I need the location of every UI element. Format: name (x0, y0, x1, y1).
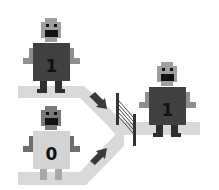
robot-head (157, 62, 177, 86)
top-path (18, 86, 124, 134)
robot-label: 0 (46, 144, 58, 164)
robot-legs (40, 169, 47, 180)
robot-top-input: 1 (23, 18, 80, 93)
robot-head (41, 106, 61, 130)
robot-bottom-input: 0 (23, 106, 80, 180)
merge-diagram: 1 0 (0, 0, 219, 190)
robot-head (41, 18, 61, 42)
robot-label: 1 (162, 100, 174, 120)
robot-label: 1 (46, 56, 58, 76)
